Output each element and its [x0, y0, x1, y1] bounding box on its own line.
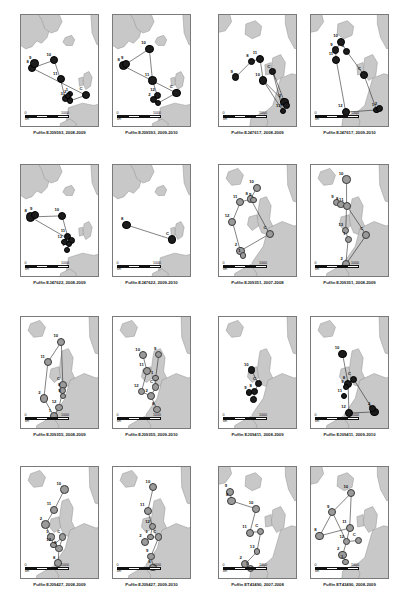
map-frame[interactable]: 109811C121201000km	[310, 14, 389, 127]
track-node[interactable]	[328, 508, 336, 516]
map-frame[interactable]: 1011C89211201000km	[20, 316, 99, 429]
track-node[interactable]	[139, 351, 147, 359]
track-node[interactable]	[280, 108, 286, 114]
track-node[interactable]	[240, 252, 246, 258]
track-node[interactable]	[122, 60, 130, 68]
scale-bar-graphic	[315, 567, 359, 569]
track-node[interactable]	[315, 532, 323, 540]
map-frame[interactable]: 101121C129801000km	[20, 466, 99, 579]
track-node[interactable]	[148, 76, 156, 84]
track-node[interactable]	[252, 505, 260, 513]
track-node[interactable]	[253, 184, 261, 192]
map-frame[interactable]: 10C891101000km	[218, 316, 297, 429]
track-node[interactable]	[66, 241, 72, 247]
track-node[interactable]	[55, 404, 62, 411]
scale-bar-graphic	[315, 417, 359, 419]
map-frame[interactable]: 10981112C2101000km	[310, 466, 389, 579]
track-node[interactable]	[257, 528, 264, 535]
track-node[interactable]	[172, 89, 181, 98]
track-node[interactable]	[360, 71, 368, 79]
track-node[interactable]	[255, 380, 262, 387]
track-node[interactable]	[228, 218, 236, 226]
track-node[interactable]	[57, 338, 65, 346]
track-node[interactable]	[256, 55, 264, 63]
track-node[interactable]	[60, 393, 66, 399]
track-node[interactable]	[152, 375, 159, 382]
map-frame[interactable]: 10C8911121201000km	[310, 316, 389, 429]
track-node[interactable]	[251, 388, 258, 395]
track-node[interactable]	[64, 247, 70, 253]
track-node[interactable]	[346, 524, 354, 532]
track-node[interactable]	[31, 211, 39, 219]
track-node[interactable]	[40, 394, 48, 402]
track-node[interactable]	[269, 68, 276, 75]
track-node[interactable]	[345, 236, 352, 243]
track-node[interactable]	[250, 396, 257, 403]
track-node[interactable]	[60, 485, 69, 494]
track-node[interactable]	[168, 235, 176, 243]
track-node[interactable]	[332, 56, 340, 64]
track-node[interactable]	[152, 383, 159, 390]
map-frame[interactable]: 1011121C29801000km	[112, 466, 191, 579]
track-node[interactable]	[141, 538, 149, 546]
track-node[interactable]	[376, 105, 383, 112]
track-node[interactable]	[369, 405, 376, 412]
track-node[interactable]	[250, 197, 257, 204]
node-label: 10	[333, 346, 339, 350]
track-node[interactable]	[343, 538, 350, 545]
track-node[interactable]	[248, 366, 256, 374]
map-frame[interactable]: 1089111221C01000km	[112, 14, 191, 127]
map-frame[interactable]: 10911112C2801000km	[112, 316, 191, 429]
track-node[interactable]	[227, 497, 235, 505]
track-node[interactable]	[149, 483, 157, 491]
track-node[interactable]	[155, 351, 162, 358]
map-frame[interactable]: 8C01000km	[112, 164, 191, 277]
track-node[interactable]	[155, 533, 162, 540]
track-node[interactable]	[82, 91, 90, 99]
track-node[interactable]	[266, 230, 274, 238]
track-node[interactable]	[30, 59, 38, 67]
track-node[interactable]	[44, 358, 52, 366]
map-frame[interactable]: 1098111312C01000km	[310, 164, 389, 277]
track-node[interactable]	[362, 231, 370, 239]
node-label: 8	[54, 383, 60, 387]
map-frame[interactable]: 981110C211201000km	[218, 14, 297, 127]
track-node[interactable]	[144, 507, 152, 515]
map-frame[interactable]: 1089111221C01000km	[218, 164, 297, 277]
track-node[interactable]	[41, 520, 50, 529]
track-node[interactable]	[145, 45, 154, 54]
track-node[interactable]	[343, 48, 350, 55]
track-node[interactable]	[50, 506, 58, 514]
node-label: 2	[236, 556, 242, 560]
track-node[interactable]	[147, 392, 155, 400]
track-node[interactable]	[259, 76, 267, 84]
track-node[interactable]	[343, 202, 351, 210]
track-node[interactable]	[58, 212, 66, 220]
track-node[interactable]	[338, 350, 346, 358]
track-node[interactable]	[55, 545, 62, 552]
node-label: 10	[134, 348, 140, 352]
track-node[interactable]	[59, 533, 66, 540]
track-node[interactable]	[248, 58, 256, 66]
track-node[interactable]	[341, 393, 347, 399]
track-node[interactable]	[347, 489, 355, 497]
map-frame[interactable]: 981011C132101000km	[218, 466, 297, 579]
track-node[interactable]	[122, 221, 130, 229]
track-node[interactable]	[246, 529, 254, 537]
map-panel: 1011C89211201000kmPuffin EJ09355, 2008-2…	[20, 316, 99, 443]
node-label: 1	[142, 530, 148, 534]
track-node[interactable]	[236, 198, 244, 206]
map-frame[interactable]: 89101131212C01000km	[20, 14, 99, 127]
track-node[interactable]	[57, 75, 65, 83]
track-node[interactable]	[342, 175, 350, 183]
track-node[interactable]	[232, 73, 240, 81]
track-node[interactable]	[254, 548, 261, 555]
track-node[interactable]	[343, 384, 349, 390]
node-label: 11	[138, 363, 144, 367]
node-label: 10	[140, 41, 146, 45]
track-node[interactable]	[155, 100, 161, 106]
map-panel: 1089111221C01000kmPuffin EJ09593, 2009-2…	[112, 14, 191, 141]
map-frame[interactable]: 89101112C1201000km	[20, 164, 99, 277]
track-node[interactable]	[355, 537, 362, 544]
track-node[interactable]	[50, 56, 58, 64]
